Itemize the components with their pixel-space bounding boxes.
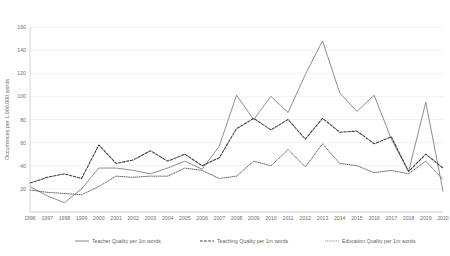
x-tick-label: 2011 <box>283 215 294 221</box>
x-tick-label: 2013 <box>317 215 329 221</box>
x-tick-label: 2001 <box>110 215 122 221</box>
y-tick-label: 100 <box>17 93 26 99</box>
gridlines-group <box>30 27 443 212</box>
y-tick-label: 20 <box>20 186 26 192</box>
x-tick-label: 2017 <box>386 215 398 221</box>
line-chart: 20406080100120140160 1996199719981999200… <box>0 0 450 256</box>
x-tick-label: 1999 <box>76 215 88 221</box>
chart-legend: Teacher Quality per 1m wordsTeaching Qua… <box>75 238 416 244</box>
x-tick-label: 2006 <box>196 215 208 221</box>
x-tick-label: 2004 <box>162 215 174 221</box>
series-line-dashed <box>30 118 443 183</box>
y-axis-ticks: 20406080100120140160 <box>17 24 26 192</box>
legend-item[interactable]: Teacher Quality per 1m words <box>75 238 161 244</box>
x-tick-label: 2005 <box>179 215 191 221</box>
x-tick-label: 2003 <box>145 215 157 221</box>
x-tick-label: 1996 <box>24 215 36 221</box>
x-tick-label: 2009 <box>248 215 260 221</box>
y-tick-label: 80 <box>20 117 26 123</box>
legend-item[interactable]: Teaching Quality per 1m words <box>200 238 289 244</box>
x-tick-label: 2018 <box>403 215 415 221</box>
x-tick-label: 2000 <box>93 215 105 221</box>
x-tick-label: 2002 <box>127 215 139 221</box>
x-tick-label: 2007 <box>214 215 226 221</box>
x-tick-label: 1997 <box>41 215 53 221</box>
y-tick-label: 120 <box>17 70 26 76</box>
series-group <box>30 41 443 203</box>
y-tick-label: 140 <box>17 47 26 53</box>
x-tick-label: 2010 <box>265 215 277 221</box>
chart-container: 20406080100120140160 1996199719981999200… <box>0 0 450 256</box>
x-tick-label: 2020 <box>437 215 449 221</box>
legend-label: Teacher Quality per 1m words <box>92 238 161 244</box>
x-tick-label: 2014 <box>334 215 346 221</box>
x-tick-label: 1998 <box>59 215 71 221</box>
x-tick-label: 2008 <box>231 215 243 221</box>
y-tick-label: 40 <box>20 163 26 169</box>
legend-label: Teaching Quality per 1m words <box>217 238 289 244</box>
series-line-dotted <box>30 144 443 195</box>
x-axis-ticks: 1996199719981999200020012002200320042005… <box>24 215 449 221</box>
x-tick-label: 2019 <box>420 215 432 221</box>
y-tick-label: 60 <box>20 140 26 146</box>
y-tick-label: 160 <box>17 24 26 30</box>
y-axis-title: Occurrences per 1,000,000 words <box>4 79 10 161</box>
x-tick-label: 2012 <box>300 215 312 221</box>
legend-item[interactable]: Education Quality per 1m words <box>325 238 416 244</box>
series-line-solid <box>30 41 443 203</box>
legend-label: Education Quality per 1m words <box>342 238 416 244</box>
x-tick-label: 2015 <box>351 215 363 221</box>
x-tick-label: 2016 <box>368 215 380 221</box>
